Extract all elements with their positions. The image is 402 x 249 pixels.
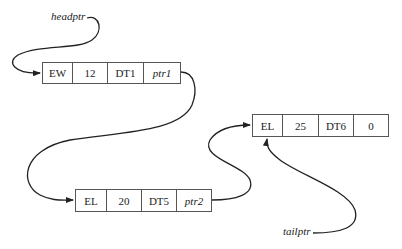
node-cell-value: 25 [283,115,319,136]
headptr-label: headptr [51,10,85,22]
node-cell-data: DT1 [108,63,144,83]
list-node-3: EL 25 DT6 0 [252,114,389,137]
node-cell-data: DT6 [319,115,354,136]
node-cell-value: 12 [73,63,108,83]
node-cell-type: EL [76,190,107,211]
node-cell-value: 20 [107,190,142,211]
node-cell-pointer: ptr1 [144,63,180,83]
node-cell-data: DT5 [142,190,177,211]
node-cell-pointer: ptr2 [177,190,211,211]
ptr2-arrow [209,125,251,200]
ptr1-arrow [28,72,195,200]
tailptr-label: tailptr [283,225,311,237]
node-cell-type: EW [43,63,73,83]
tailptr-arrow [267,139,356,233]
node-cell-type: EL [253,115,283,136]
list-node-1: EW 12 DT1 ptr1 [42,62,181,84]
list-node-2: EL 20 DT5 ptr2 [75,189,212,212]
node-cell-pointer: 0 [354,115,388,136]
